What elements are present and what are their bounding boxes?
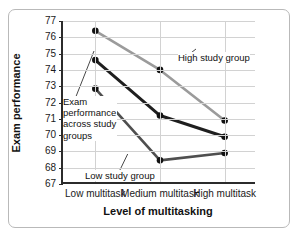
gridline-horizontal: [63, 86, 255, 87]
y-axis-tick-label: 75: [45, 49, 56, 59]
annotation-line-3: across study: [63, 118, 117, 129]
chart-figure: Exam performance 6768697071727374757677L…: [0, 0, 299, 241]
x-axis-tick-label: Medium multitask: [121, 188, 199, 199]
annotation-high-study-group: High study group: [178, 52, 250, 63]
x-axis-tick-label: Low multitask: [65, 188, 126, 199]
annotation-line-2: performance: [63, 107, 117, 118]
y-axis-tick-label: 67: [45, 179, 56, 189]
y-axis-tick: [59, 151, 63, 152]
y-axis-tick-label: 72: [45, 98, 56, 108]
y-axis-tick-label: 74: [45, 65, 56, 75]
gridline-horizontal: [63, 37, 255, 38]
gridline-horizontal: [63, 21, 255, 22]
y-axis-tick-label: 77: [45, 16, 56, 26]
leader-exam-across-groups: [75, 51, 94, 99]
y-axis-tick: [59, 37, 63, 38]
y-axis-tick-label: 70: [45, 130, 56, 140]
annotation-low-study-group: Low study group: [85, 170, 155, 181]
gridline-vertical: [225, 21, 226, 182]
y-axis-tick-label: 73: [45, 81, 56, 91]
y-axis-tick-label: 69: [45, 146, 56, 156]
y-axis-tick: [59, 168, 63, 169]
y-axis-tick-label: 68: [45, 163, 56, 173]
y-axis-tick: [59, 184, 63, 185]
gridline-vertical: [160, 21, 161, 182]
y-axis-tick-label: 71: [45, 114, 56, 124]
y-axis-tick: [59, 21, 63, 22]
gridline-horizontal: [63, 70, 255, 71]
x-axis-tick-label: High multitask: [193, 188, 256, 199]
annotation-line-4: groups: [63, 130, 117, 141]
y-axis-tick: [59, 54, 63, 55]
gridline-horizontal: [63, 151, 255, 152]
gridline-horizontal: [63, 168, 255, 169]
annotation-exam-performance-across-groups: Exam performance across study groups: [63, 96, 117, 141]
x-axis-title: Level of multitasking: [103, 205, 212, 217]
annotation-line-1: Exam: [63, 96, 117, 107]
y-axis-tick: [59, 86, 63, 87]
y-axis-tick: [59, 70, 63, 71]
y-axis-tick-label: 76: [45, 32, 56, 42]
y-axis-title: Exam performance: [10, 53, 22, 152]
